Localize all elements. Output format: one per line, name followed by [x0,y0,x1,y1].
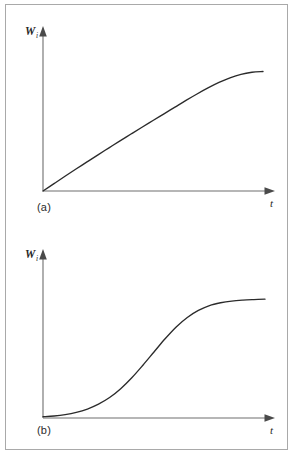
figure-root: W i t (a) W i t [0,0,295,457]
panel-b-x-axis-label: t [270,424,274,436]
panel-b-y-axis-label: W [25,248,36,260]
panel-b-plot: W i t [6,228,289,451]
panel-a-y-axis-label-subscript: i [36,31,38,40]
panel-b-y-axis-arrow-icon [39,249,47,260]
chart-panel-a: W i t (a) [6,5,289,228]
panel-a-x-axis-label: t [270,197,274,209]
panel-b-y-axis-label-subscript: i [36,254,38,263]
panel-a-curve [43,71,263,191]
panel-a-caption: (a) [37,201,51,213]
panel-a-x-axis-arrow-icon [265,187,276,195]
panel-b-caption: (b) [37,424,51,436]
figure-frame: W i t (a) W i t [5,4,288,450]
panel-a-y-axis-label: W [25,25,36,37]
panel-b-curve [43,299,265,416]
panel-a-y-axis-arrow-icon [39,26,47,37]
panel-b-x-axis-arrow-icon [265,414,276,422]
panel-a-plot: W i t [6,5,289,228]
chart-panel-b: W i t (b) [6,228,289,451]
